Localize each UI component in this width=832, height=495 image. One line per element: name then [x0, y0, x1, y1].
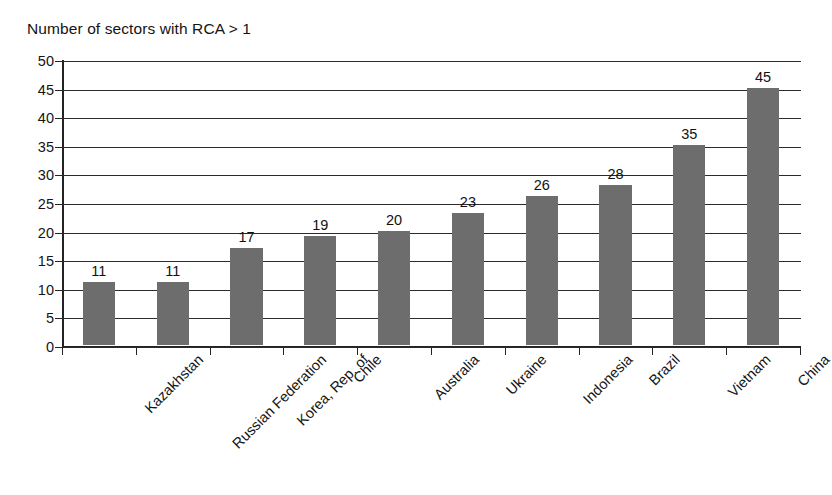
bar: [83, 282, 115, 345]
y-axis-tick-label: 30: [28, 168, 54, 183]
y-axis-tick: [55, 204, 62, 205]
bar: [230, 248, 262, 345]
y-axis-tick-label: 45: [28, 83, 54, 98]
y-axis-tick: [55, 318, 62, 319]
y-axis-tick-label: 40: [28, 111, 54, 126]
y-axis-tick: [55, 175, 62, 176]
bar-value-label: 11: [136, 264, 210, 279]
bar: [157, 282, 189, 345]
bar-value-label: 28: [579, 167, 653, 182]
x-axis-category-label: Australia: [431, 352, 481, 402]
y-axis-tick-label: 25: [28, 197, 54, 212]
x-axis-category-label: Kazakhstan: [142, 352, 206, 416]
y-axis-tick-label: 50: [28, 54, 54, 69]
x-axis-category-label: Vietnam: [725, 352, 773, 400]
bar: [673, 145, 705, 345]
y-axis-tick-label: 5: [28, 311, 54, 326]
x-axis-category-label: Indonesia: [581, 352, 636, 407]
bar-value-label: 35: [652, 127, 726, 142]
y-axis-tick-label: 20: [28, 226, 54, 241]
x-axis-tick: [800, 347, 801, 355]
bar-value-label: 19: [283, 218, 357, 233]
y-axis-tick: [55, 347, 62, 348]
x-axis-category-label: Brazil: [647, 352, 683, 388]
plot-area: 11111719202326283545: [62, 60, 800, 347]
bar: [378, 231, 410, 345]
x-axis-category-labels: KazakhstanRussian FederationKorea, Rep. …: [62, 352, 800, 492]
chart-title: Number of sectors with RCA > 1: [27, 20, 251, 38]
y-axis-tick: [55, 290, 62, 291]
bar: [304, 236, 336, 345]
y-axis-tick: [55, 90, 62, 91]
gridline: [62, 90, 801, 91]
y-axis-tick: [55, 61, 62, 62]
bar-value-label: 17: [210, 230, 284, 245]
y-axis-tick: [55, 233, 62, 234]
y-axis-tick: [55, 118, 62, 119]
gridline: [62, 61, 801, 62]
gridline: [62, 118, 801, 119]
bar-value-label: 20: [357, 213, 431, 228]
bar: [452, 213, 484, 345]
bar-value-label: 23: [431, 195, 505, 210]
bar-value-label: 11: [62, 264, 136, 279]
y-axis-tick: [55, 261, 62, 262]
bar-value-label: 45: [726, 70, 800, 85]
x-axis-category-label: China: [795, 352, 832, 389]
bar: [599, 185, 631, 345]
y-axis-tick-label: 10: [28, 283, 54, 298]
x-axis-category-label: Ukraine: [503, 352, 549, 398]
y-axis-tick-labels: 05101520253035404550: [24, 60, 54, 348]
bar-value-label: 26: [505, 178, 579, 193]
bar: [747, 88, 779, 345]
y-axis-tick: [55, 147, 62, 148]
y-axis-tick-label: 0: [28, 340, 54, 355]
y-axis-tick-label: 15: [28, 254, 54, 269]
y-axis-tick-label: 35: [28, 140, 54, 155]
bar: [526, 196, 558, 345]
